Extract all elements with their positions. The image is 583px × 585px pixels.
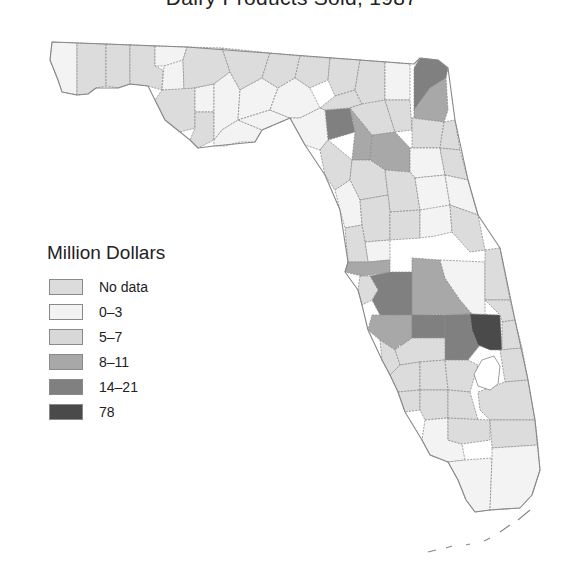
county [355, 60, 385, 105]
legend-label: No data [99, 279, 148, 295]
legend-title: Million Dollars [47, 242, 165, 264]
county [155, 88, 195, 132]
legend-swatch [49, 329, 83, 345]
legend-swatch [49, 354, 83, 370]
county [325, 108, 355, 140]
county [412, 315, 445, 338]
county [360, 195, 390, 242]
county [502, 320, 522, 350]
legend-label: 8–11 [99, 354, 129, 370]
county [448, 458, 492, 512]
legend-label: 14–21 [99, 379, 138, 395]
legend-item-0-3: 0–3 [47, 301, 165, 322]
county [448, 418, 490, 444]
county [490, 445, 540, 510]
county [485, 248, 510, 300]
florida-keys [428, 510, 530, 552]
county [415, 175, 450, 210]
county [50, 42, 77, 95]
county [445, 360, 478, 392]
legend-item-5-7: 5–7 [47, 326, 165, 347]
county [500, 348, 528, 382]
legend-item-14-21: 14–21 [47, 376, 165, 397]
legend-label: 5–7 [99, 329, 122, 345]
legend-label: 0–3 [99, 304, 122, 320]
county [412, 118, 444, 148]
legend-swatch [49, 304, 83, 320]
county [448, 390, 478, 420]
county [420, 390, 448, 420]
map-legend: Million Dollars No data 0–3 5–7 8–11 14–… [47, 242, 165, 426]
legend-item-no-data: No data [47, 276, 165, 297]
county [410, 148, 445, 178]
county [490, 420, 538, 448]
county [365, 240, 390, 262]
county [420, 205, 452, 238]
legend-item-78: 78 [47, 401, 165, 422]
county [385, 62, 410, 100]
county [420, 360, 448, 390]
lake-okeechobee [474, 356, 500, 390]
county [106, 44, 130, 88]
legend-swatch [49, 379, 83, 395]
county [77, 43, 106, 95]
legend-label: 78 [99, 404, 115, 420]
county [390, 210, 420, 240]
county [195, 84, 214, 112]
legend-swatch [49, 404, 83, 420]
legend-item-8-11: 8–11 [47, 351, 165, 372]
county [450, 205, 485, 252]
legend-swatch [49, 279, 83, 295]
